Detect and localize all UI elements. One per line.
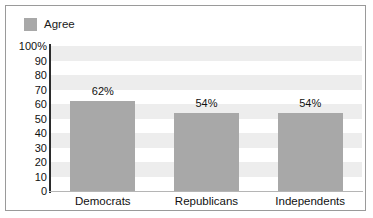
- bar-value-label: 54%: [155, 98, 259, 109]
- legend-label-agree: Agree: [44, 19, 75, 31]
- y-axis-tick-label: 100%: [7, 41, 47, 52]
- y-axis-tick-label: 20: [7, 157, 47, 168]
- bar-value-label: 62%: [51, 86, 155, 97]
- y-axis-tick-label: 70: [7, 85, 47, 96]
- plot-area: 62%54%54%: [51, 46, 362, 191]
- grid-band: [51, 46, 362, 61]
- y-axis-tick-labels: 100%9080706050403020100: [6, 6, 47, 211]
- x-axis-line: [49, 191, 363, 192]
- x-axis-category-label: Republicans: [155, 196, 259, 208]
- y-axis-tick-label: 0: [7, 186, 47, 197]
- x-axis-category-label: Independents: [258, 196, 362, 208]
- y-axis-tick-label: 60: [7, 99, 47, 110]
- bar[interactable]: [174, 113, 239, 191]
- y-axis-tick-label: 80: [7, 70, 47, 81]
- y-axis-tick-label: 40: [7, 128, 47, 139]
- chart-frame: Agree 100%9080706050403020100 62%54%54% …: [5, 5, 366, 211]
- y-axis-tick-label: 50: [7, 114, 47, 125]
- x-axis-category-label: Democrats: [51, 196, 155, 208]
- y-axis-line: [49, 44, 51, 193]
- bar[interactable]: [278, 113, 343, 191]
- y-axis-tick-label: 30: [7, 143, 47, 154]
- bar[interactable]: [70, 101, 135, 191]
- y-axis-tick-label: 90: [7, 56, 47, 67]
- y-axis-tick-label: 10: [7, 172, 47, 183]
- bar-value-label: 54%: [258, 98, 362, 109]
